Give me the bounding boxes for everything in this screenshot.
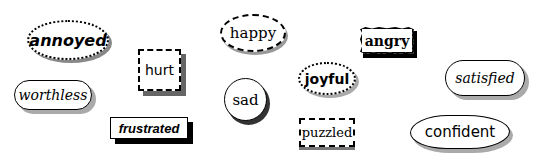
label-happy: happy <box>220 14 286 52</box>
label-sad: sad <box>224 78 267 121</box>
label-text: confident <box>425 123 496 141</box>
label-confident: confident <box>410 115 510 149</box>
label-text: happy <box>230 24 276 42</box>
label-joyful: joyful <box>298 62 356 95</box>
label-text: worthless <box>19 87 88 103</box>
label-angry: angry <box>360 27 414 54</box>
label-text: puzzled <box>302 125 353 140</box>
label-satisfied: satisfied <box>445 60 525 96</box>
label-text: frustrated <box>119 121 180 136</box>
label-text: joyful <box>305 71 349 87</box>
label-annoyed: annoyed <box>27 20 109 60</box>
label-text: angry <box>365 33 410 49</box>
label-puzzled: puzzled <box>299 118 355 147</box>
label-text: sad <box>232 91 258 109</box>
label-frustrated: frustrated <box>110 117 188 139</box>
label-text: satisfied <box>455 70 514 86</box>
label-hurt: hurt <box>138 49 181 91</box>
label-worthless: worthless <box>14 80 92 110</box>
label-text: annoyed <box>29 31 106 50</box>
label-text: hurt <box>145 62 174 78</box>
